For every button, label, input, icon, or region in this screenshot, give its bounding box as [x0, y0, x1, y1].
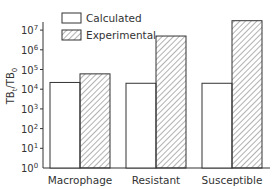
x-category-label: Resistant [132, 174, 180, 186]
y-tick-label: 106 [21, 44, 39, 56]
legend-label: Calculated [86, 12, 142, 24]
y-tick-label: 103 [21, 103, 38, 115]
bar-experimental [232, 21, 262, 168]
x-category-label: Macrophage [48, 174, 113, 186]
legend-swatch-experimental [62, 30, 81, 40]
y-tick-label: 101 [21, 142, 38, 154]
y-axis-label: TBt/TB0 [5, 68, 19, 106]
bars: MacrophageResistantSusceptible [48, 21, 263, 186]
bar-group-susceptible: Susceptible [202, 21, 263, 186]
bar-group-macrophage: Macrophage [48, 74, 113, 186]
y-tick-label: 105 [21, 64, 38, 76]
bar-calculated [126, 83, 156, 168]
legend-swatch-calculated [62, 13, 81, 23]
y-tick-label: 100 [21, 162, 38, 174]
bar-experimental [156, 36, 186, 168]
bar-experimental [80, 74, 110, 168]
bar-calculated [50, 82, 80, 168]
bar-group-resistant: Resistant [126, 36, 186, 186]
x-category-label: Susceptible [202, 174, 263, 186]
legend: CalculatedExperimental [62, 12, 156, 41]
y-tick-label: 107 [21, 24, 38, 36]
y-tick-label: 104 [21, 83, 39, 95]
y-tick-label: 102 [21, 123, 38, 135]
legend-label: Experimental [86, 29, 156, 41]
bar-calculated [202, 83, 232, 168]
bar-chart: 100101102103104105106107 MacrophageResis… [0, 0, 274, 189]
